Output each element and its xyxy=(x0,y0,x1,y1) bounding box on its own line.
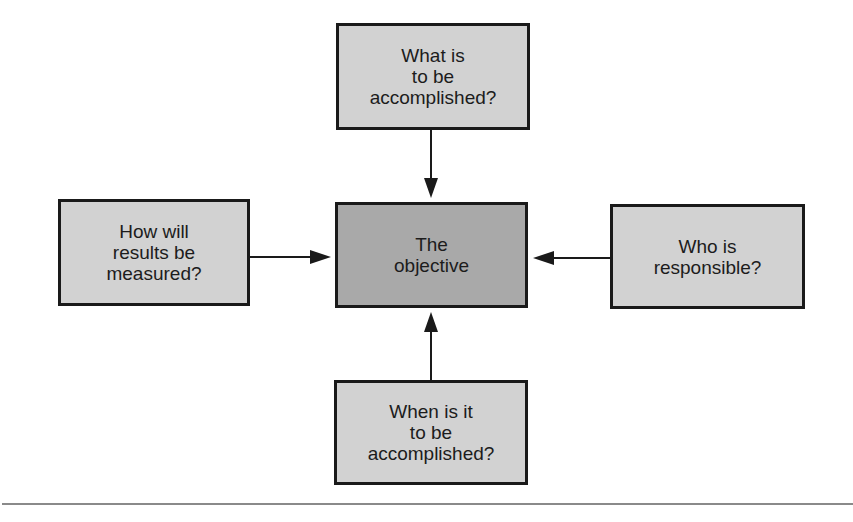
bottom-rule-divider xyxy=(2,503,853,505)
arrow-bottom-to-center xyxy=(424,312,438,380)
arrow-left-to-center xyxy=(250,250,331,264)
arrow-top-to-center xyxy=(424,130,438,198)
arrow-right-to-center xyxy=(533,251,610,265)
connector-arrows xyxy=(0,0,853,522)
